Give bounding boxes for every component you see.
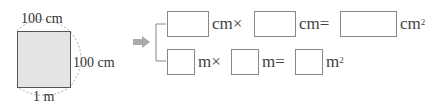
row1-unit-3: cm2: [400, 15, 425, 33]
top-side-label: 100 cm: [21, 12, 63, 26]
row1-unit-1: cm×: [212, 15, 242, 33]
exponent: 2: [421, 17, 426, 27]
row2-answer-box-3[interactable]: [295, 49, 323, 75]
equals-operator: =: [275, 52, 285, 71]
row1-answer-box-3[interactable]: [340, 11, 397, 37]
row1-unit-2: cm=: [299, 15, 329, 33]
square-figure: [17, 31, 71, 88]
row2-answer-box-1[interactable]: [167, 49, 195, 75]
row1-answer-box-1[interactable]: [167, 11, 209, 37]
unit-text: cm: [299, 14, 320, 33]
right-side-label: 100 cm: [73, 56, 115, 70]
exponent: 2: [339, 55, 344, 65]
row2-unit-2: m=: [262, 53, 285, 71]
row2-unit-3: m2: [326, 53, 344, 71]
row2-answer-box-2[interactable]: [231, 49, 259, 75]
bottom-side-label: 1 m: [33, 90, 54, 104]
unit-text: cm: [400, 14, 421, 33]
times-operator: ×: [233, 14, 243, 33]
row2-unit-1: m×: [198, 53, 221, 71]
row1-answer-box-2[interactable]: [254, 11, 296, 37]
equals-operator: =: [320, 14, 330, 33]
unit-text: m: [262, 52, 275, 71]
times-operator: ×: [211, 52, 221, 71]
unit-text: m: [198, 52, 211, 71]
bracket-connector: [152, 20, 168, 66]
arrow-right-icon: [133, 36, 151, 48]
unit-text: m: [326, 52, 339, 71]
unit-text: cm: [212, 14, 233, 33]
